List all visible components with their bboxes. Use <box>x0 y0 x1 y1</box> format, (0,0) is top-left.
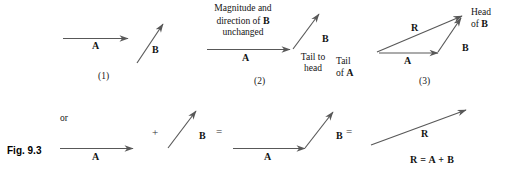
panel-2-tail-to-head-line-1: Tail to <box>301 52 325 62</box>
panel-1-vector-b-label: B <box>152 44 159 55</box>
bottom-sum-vector-a-label: A <box>264 151 271 162</box>
equals-operator-2: = <box>346 126 352 137</box>
panel-1-number: (1) <box>98 71 109 82</box>
panel-3-tail-of-a-line-2-vector: A <box>346 67 353 78</box>
panel-2-tail-to-head-line-2: head <box>304 63 322 73</box>
figure-caption: Fig. 9.3 <box>7 145 41 156</box>
panel-1-vector-a-label: A <box>92 40 99 51</box>
panel-3-number: (3) <box>419 76 430 87</box>
panel-3-vector-b-label: B <box>462 42 469 53</box>
bottom-vector-a-label: A <box>92 151 99 162</box>
bottom-row-vectors <box>60 110 466 149</box>
panel-2-vector-b-arrow <box>293 14 319 49</box>
panel-2-number: (2) <box>254 76 265 87</box>
resultant-equation: R = A + B <box>410 154 454 165</box>
panel-3-resultant-label: R <box>411 22 418 33</box>
panel-2-vector-a-label: A <box>242 52 249 63</box>
panel-3-vector-b-arrow <box>438 18 461 52</box>
panel-2-note-line-2-vector: B <box>263 15 270 26</box>
equals-operator-1: = <box>216 126 222 137</box>
bottom-resultant-arrow <box>371 110 466 145</box>
plus-operator: + <box>152 127 158 138</box>
panel-1-vectors <box>63 24 163 63</box>
panel-1-vector-b-arrow <box>137 24 163 63</box>
bottom-resultant-label: R <box>421 128 428 139</box>
bottom-vector-b-label: B <box>199 130 206 141</box>
panel-3-tail-of-a-line-2-prefix: of <box>336 68 346 78</box>
panel-3-head-of-b-label: Head of B <box>471 7 511 30</box>
bottom-vector-b-arrow <box>168 111 196 148</box>
panel-3-vectors <box>377 16 462 53</box>
panel-2-note-line-3: unchanged <box>222 27 263 37</box>
figure-vector-addition: A B (1) Magnitude and direction of B unc… <box>0 0 513 178</box>
or-label: or <box>60 113 68 124</box>
panel-3-vector-a-label: A <box>404 55 411 66</box>
bottom-sum-vector-b-arrow <box>305 112 333 148</box>
panel-2-note-line-2-prefix: direction of <box>216 16 262 26</box>
bottom-sum-vector-b-label: B <box>336 130 343 141</box>
panel-3-tail-of-a-line-1: Tail <box>336 56 351 66</box>
panel-3-tail-of-a-label: Tail of A <box>336 56 370 79</box>
panel-2-note-line-1: Magnitude and <box>214 3 271 13</box>
panel-3-head-of-b-line-2-prefix: of <box>471 19 481 29</box>
panel-2-tail-to-head-label: Tail to head <box>293 52 333 74</box>
panel-2-vector-b-label: B <box>322 33 329 44</box>
panel-3-head-of-b-line-1: Head <box>471 7 491 17</box>
panel-3-head-of-b-line-2-vector: B <box>481 18 488 29</box>
panel-2-note: Magnitude and direction of B unchanged <box>196 3 290 39</box>
panel-3-resultant-arrow <box>377 16 462 52</box>
